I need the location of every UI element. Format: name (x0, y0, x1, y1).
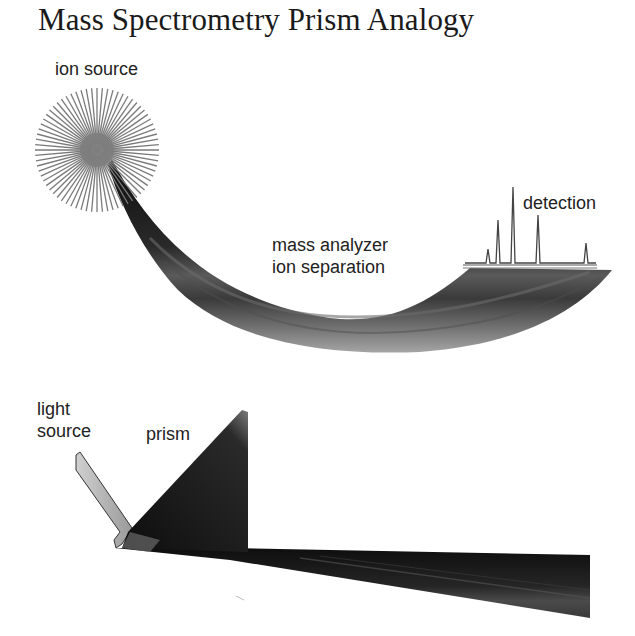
dispersed-beam (115, 548, 590, 618)
mass-analyzer-line2: ion separation (272, 256, 388, 278)
ion-source-label: ion source (55, 58, 138, 80)
detection-label: detection (523, 192, 596, 214)
starburst-icon (35, 88, 159, 212)
mass-analyzer-label: mass analyzer ion separation (272, 234, 388, 278)
light-source-line1: light (37, 398, 91, 420)
prism-label: prism (146, 423, 190, 445)
light-source-line2: source (37, 420, 91, 442)
light-beam (76, 452, 132, 548)
light-source-label: light source (37, 398, 91, 442)
analogy-diagram (0, 0, 635, 636)
mass-analyzer-line1: mass analyzer (272, 234, 388, 256)
